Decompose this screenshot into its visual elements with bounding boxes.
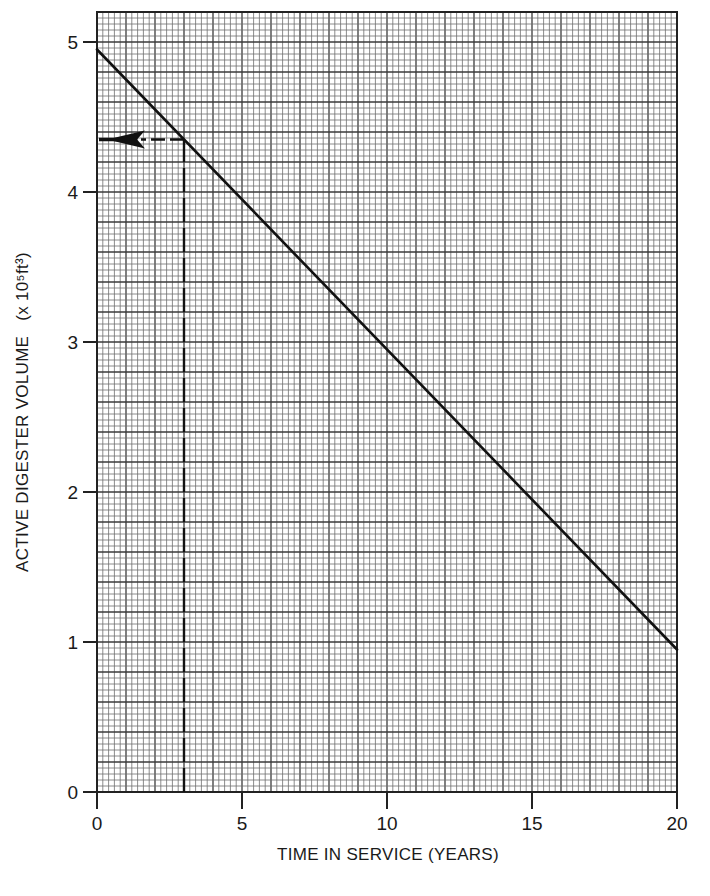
y-tick-label: 3 <box>67 332 78 353</box>
x-tick-label: 0 <box>92 813 103 834</box>
y-tick-label: 0 <box>67 782 78 803</box>
y-axis-ticks: 012345 <box>67 32 97 803</box>
y-axis-title-main: ACTIVE DIGESTER VOLUME <box>13 336 32 572</box>
y-axis-title: ACTIVE DIGESTER VOLUME (x 10⁵ft³) <box>13 252 32 572</box>
x-axis-ticks: 05101520 <box>92 792 688 834</box>
x-tick-label: 10 <box>376 813 397 834</box>
annotations <box>99 131 184 793</box>
y-tick-label: 4 <box>67 182 78 203</box>
y-axis-title-units: (x 10⁵ft³) <box>13 252 32 321</box>
y-tick-label: 5 <box>67 32 78 53</box>
x-axis-title: TIME IN SERVICE (YEARS) <box>277 845 499 864</box>
x-tick-label: 20 <box>666 813 687 834</box>
chart: 012345 05101520 TIME IN SERVICE (YEARS) … <box>0 0 710 896</box>
y-tick-label: 1 <box>67 632 78 653</box>
y-tick-label: 2 <box>67 482 78 503</box>
x-tick-label: 5 <box>237 813 248 834</box>
x-tick-label: 15 <box>521 813 542 834</box>
